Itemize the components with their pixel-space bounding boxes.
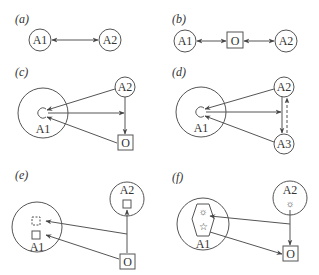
star-icon: ☆ xyxy=(199,221,208,232)
node-label-a1: A1 xyxy=(30,240,45,254)
node-label-a1: A1 xyxy=(36,122,51,136)
diagram-figure: (a) A1 A2 (b) A1 O A2 (c) A1 A2 O (d) xyxy=(0,0,319,275)
self-marker-a1 xyxy=(38,108,46,118)
node-label-a2: A2 xyxy=(103,33,118,47)
panel-label-a: (a) xyxy=(15,12,29,26)
node-label-a1: A1 xyxy=(194,121,209,135)
node-label-a2: A2 xyxy=(120,183,135,197)
node-label-a2: A2 xyxy=(279,34,294,48)
object-box-a2 xyxy=(123,200,131,208)
panel-a: (a) A1 A2 xyxy=(15,12,121,51)
node-label-o: O xyxy=(123,255,132,269)
arrow-o-a1 xyxy=(47,117,117,143)
arrow-to-imagined-object xyxy=(46,221,127,234)
arrow-o-a1 xyxy=(46,235,119,259)
node-label-a1: A1 xyxy=(178,34,193,48)
node-label-a3: A3 xyxy=(277,137,292,151)
self-marker-a1 xyxy=(196,107,204,117)
node-label-a2: A2 xyxy=(283,183,298,197)
panel-d: (d) A1 A2 A3 xyxy=(172,65,294,154)
arrow-to-a1-sun xyxy=(210,216,290,224)
sun-icon: ☼ xyxy=(198,206,207,217)
panel-f: (f) ☼ ☆ A1 A2 ☼ O xyxy=(172,170,307,261)
node-label-o: O xyxy=(286,247,295,261)
panel-label-e: (e) xyxy=(15,168,28,182)
object-box-a1 xyxy=(32,231,40,239)
panel-label-b: (b) xyxy=(172,12,186,26)
panel-label-c: (c) xyxy=(15,65,28,79)
panel-c: (c) A1 A2 O xyxy=(15,65,135,150)
node-label-a2: A2 xyxy=(118,80,133,94)
panel-e: (e) A1 A2 O xyxy=(12,168,144,269)
sun-icon: ☼ xyxy=(285,198,294,209)
node-label-a1: A1 xyxy=(196,237,211,251)
node-label-o: O xyxy=(231,34,240,48)
imagined-object-box xyxy=(32,217,40,225)
panel-b: (b) A1 O A2 xyxy=(172,12,297,52)
panel-label-d: (d) xyxy=(172,65,186,79)
node-label-o: O xyxy=(121,136,130,150)
panel-label-f: (f) xyxy=(172,170,183,184)
arrow-a3-a1 xyxy=(205,116,274,142)
node-label-a1: A1 xyxy=(33,33,48,47)
node-label-a2: A2 xyxy=(277,80,292,94)
